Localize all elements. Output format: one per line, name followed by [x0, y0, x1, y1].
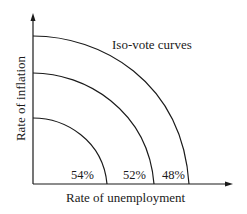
- curve-label-54: 54%: [71, 169, 94, 182]
- y-axis: [31, 13, 36, 184]
- curve-outer-48: [33, 36, 189, 184]
- y-axis-label: Rate of inflation: [14, 47, 27, 151]
- curve-label-48: 48%: [162, 169, 185, 182]
- diagram-title: Iso-vote curves: [112, 38, 192, 51]
- curve-label-52: 52%: [123, 169, 146, 182]
- y-axis-arrow-icon: [31, 13, 36, 21]
- curve-inner-54: [33, 118, 107, 184]
- x-axis: [33, 182, 233, 187]
- x-axis-label: Rate of unemployment: [66, 191, 185, 204]
- x-axis-arrow-icon: [225, 182, 233, 187]
